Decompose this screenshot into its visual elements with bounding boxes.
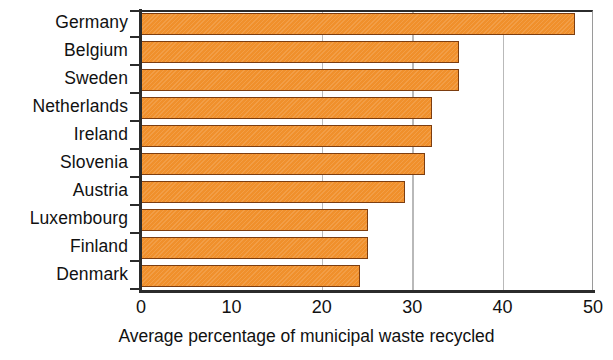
category-label: Netherlands — [0, 95, 128, 117]
x-tick-label: 40 — [493, 296, 513, 318]
y-axis-tick — [130, 288, 139, 290]
bar — [141, 265, 360, 287]
bar — [141, 181, 405, 203]
category-label: Ireland — [0, 123, 128, 145]
x-tick-label: 0 — [136, 296, 146, 318]
bar — [141, 97, 432, 119]
y-axis-tick — [130, 176, 139, 178]
bar — [141, 209, 368, 231]
bar — [141, 153, 425, 175]
x-tick-label: 30 — [402, 296, 422, 318]
x-tick-label: 20 — [312, 296, 332, 318]
plot-area — [141, 10, 593, 291]
x-axis-tick-labels: 01020304050 — [0, 296, 613, 322]
category-label: Luxembourg — [0, 207, 128, 229]
bar-chart: GermanyBelgiumSwedenNetherlandsIrelandSl… — [0, 0, 613, 360]
y-axis-tick — [130, 232, 139, 234]
category-label: Austria — [0, 179, 128, 201]
y-axis-tick — [130, 120, 139, 122]
category-label: Sweden — [0, 67, 128, 89]
y-axis-line — [139, 9, 142, 293]
category-label: Denmark — [0, 263, 128, 285]
category-axis-labels: GermanyBelgiumSwedenNetherlandsIrelandSl… — [0, 10, 128, 291]
y-axis-tick — [130, 92, 139, 94]
category-label: Finland — [0, 235, 128, 257]
bar — [141, 13, 575, 35]
bar — [141, 237, 368, 259]
y-axis-tick — [130, 148, 139, 150]
bar — [141, 69, 459, 91]
y-axis-tick — [130, 36, 139, 38]
gridline-40 — [503, 12, 505, 291]
category-label: Slovenia — [0, 151, 128, 173]
x-tick-label: 50 — [583, 296, 603, 318]
x-axis-line — [139, 290, 595, 293]
bar — [141, 125, 432, 147]
category-label: Germany — [0, 11, 128, 33]
bar — [141, 41, 459, 63]
category-label: Belgium — [0, 39, 128, 61]
y-axis-tick — [130, 10, 139, 12]
y-axis-tick — [130, 260, 139, 262]
x-tick-label: 10 — [221, 296, 241, 318]
x-axis-title: Average percentage of municipal waste re… — [0, 326, 613, 347]
y-axis-tick — [130, 204, 139, 206]
y-axis-tick — [130, 64, 139, 66]
